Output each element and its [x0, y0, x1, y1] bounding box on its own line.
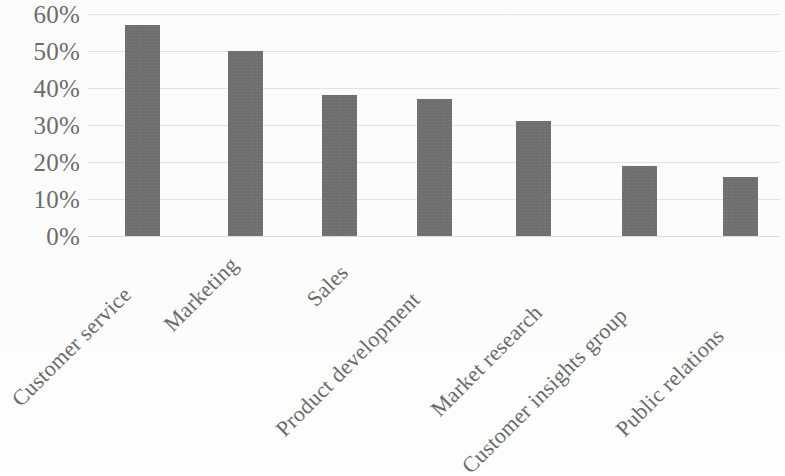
bar-public-relations — [723, 177, 758, 236]
bar-customer-insights-group — [622, 166, 657, 236]
y-axis-tick-label: 40% — [10, 76, 80, 101]
bar-marketing — [228, 51, 263, 236]
y-axis-tick-label: 60% — [10, 2, 80, 27]
y-axis-tick-label: 30% — [10, 113, 80, 138]
gridline-50 — [88, 51, 780, 52]
x-axis-label-customer-service: Customer service — [8, 283, 135, 410]
gridline-0-baseline — [88, 236, 780, 237]
bar-product-development — [417, 99, 452, 236]
x-axis-label-public-relations: Public relations — [612, 324, 728, 440]
x-axis-label-product-development: Product development — [272, 288, 424, 440]
y-axis-tick-label: 10% — [10, 187, 80, 212]
y-axis-tick-label: 20% — [10, 150, 80, 175]
bar-sales — [322, 95, 357, 236]
gridline-60 — [88, 14, 780, 15]
x-axis-label-sales: Sales — [303, 261, 352, 310]
bar-customer-service — [125, 25, 160, 236]
bar-market-research — [516, 121, 551, 236]
gridline-40 — [88, 88, 780, 89]
x-axis-label-marketing: Marketing — [160, 253, 242, 335]
y-axis-tick-label: 50% — [10, 39, 80, 64]
y-axis-tick-label: 0% — [10, 224, 80, 249]
x-axis-label-customer-insights-group: Customer insights group — [458, 304, 631, 476]
